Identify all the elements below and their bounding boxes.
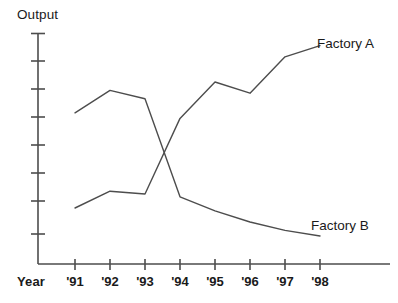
series-label-factory-a: Factory A: [317, 36, 374, 51]
x-tick-label-1996: '96: [241, 274, 259, 289]
series-line-factory-b: [75, 90, 320, 236]
y-axis: [31, 33, 45, 264]
x-tick-label-1991: '91: [66, 274, 84, 289]
x-tick-label-1997: '97: [276, 274, 294, 289]
x-tick-label-1995: '95: [206, 274, 224, 289]
line-chart: Output Year '91 '92 '93: [0, 0, 398, 303]
x-axis: [38, 259, 390, 270]
series-label-factory-b: Factory B: [311, 218, 369, 233]
x-tick-label-1993: '93: [136, 274, 154, 289]
x-tick-label-1998: '98: [311, 274, 329, 289]
x-tick-label-1994: '94: [171, 274, 189, 289]
x-tick-label-1992: '92: [101, 274, 119, 289]
series-line-factory-a: [75, 46, 320, 208]
